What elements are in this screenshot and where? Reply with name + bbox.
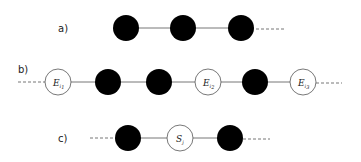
filled-node (95, 69, 121, 95)
filled-node (115, 125, 141, 151)
filled-node (242, 69, 268, 95)
row-a: a) (58, 15, 286, 41)
filled-node (228, 15, 254, 41)
row-a-label: a) (58, 23, 68, 34)
filled-node (170, 15, 196, 41)
row-b-label: b) (18, 64, 28, 75)
filled-node (146, 69, 172, 95)
row-c-label: c) (58, 133, 67, 144)
row-c: c) Sj (58, 125, 270, 151)
row-b: b) Ei1 Ei2 Ei3 (18, 64, 342, 95)
filled-node (113, 15, 139, 41)
filled-node (217, 125, 243, 151)
chain-diagram: a) b) Ei1 Ei2 Ei3 c) (0, 0, 361, 162)
